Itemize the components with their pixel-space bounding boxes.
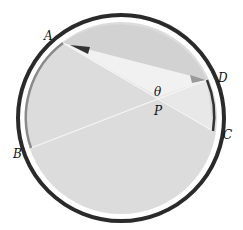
label-d: D — [217, 71, 228, 85]
circle-diagram: A D C B θ P — [0, 0, 243, 230]
label-theta: θ — [154, 85, 162, 99]
label-c: C — [223, 128, 232, 142]
label-b: B — [12, 147, 22, 161]
label-p: P — [153, 104, 163, 118]
label-a: A — [43, 29, 53, 43]
